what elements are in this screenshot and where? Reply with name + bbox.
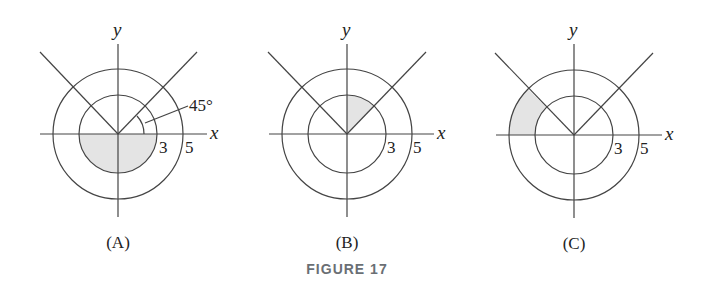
y-axis-label-c: y: [567, 19, 578, 40]
radius-5-label-c: 5: [640, 139, 649, 158]
panel-label-a: (A): [106, 233, 130, 252]
shaded-region-b: [347, 95, 375, 134]
radius-3-label-b: 3: [387, 138, 396, 157]
panel-b: [268, 44, 434, 217]
radius-3-label-c: 3: [614, 139, 623, 158]
panel-a: [40, 44, 207, 217]
radius-5-label-b: 5: [413, 138, 422, 157]
x-axis-label-a: x: [209, 122, 219, 143]
figure-caption: FIGURE 17: [306, 261, 387, 277]
radius-3-label-a: 3: [159, 138, 168, 157]
y-axis-label-a: y: [111, 19, 122, 40]
panel-label-c: (C): [563, 234, 586, 253]
figure-canvas: y x 3 5 45° (A) y x 3 5 (B) y x 3 5 (C) …: [0, 0, 710, 292]
panel-c: [495, 44, 662, 218]
x-axis-label-b: x: [436, 122, 446, 143]
shaded-region-c: [509, 89, 546, 135]
y-axis-label-b: y: [340, 19, 351, 40]
x-axis-label-c: x: [664, 123, 674, 144]
panel-label-b: (B): [336, 233, 359, 252]
radius-5-label-a: 5: [185, 138, 194, 157]
angle-label-a: 45°: [189, 96, 213, 115]
